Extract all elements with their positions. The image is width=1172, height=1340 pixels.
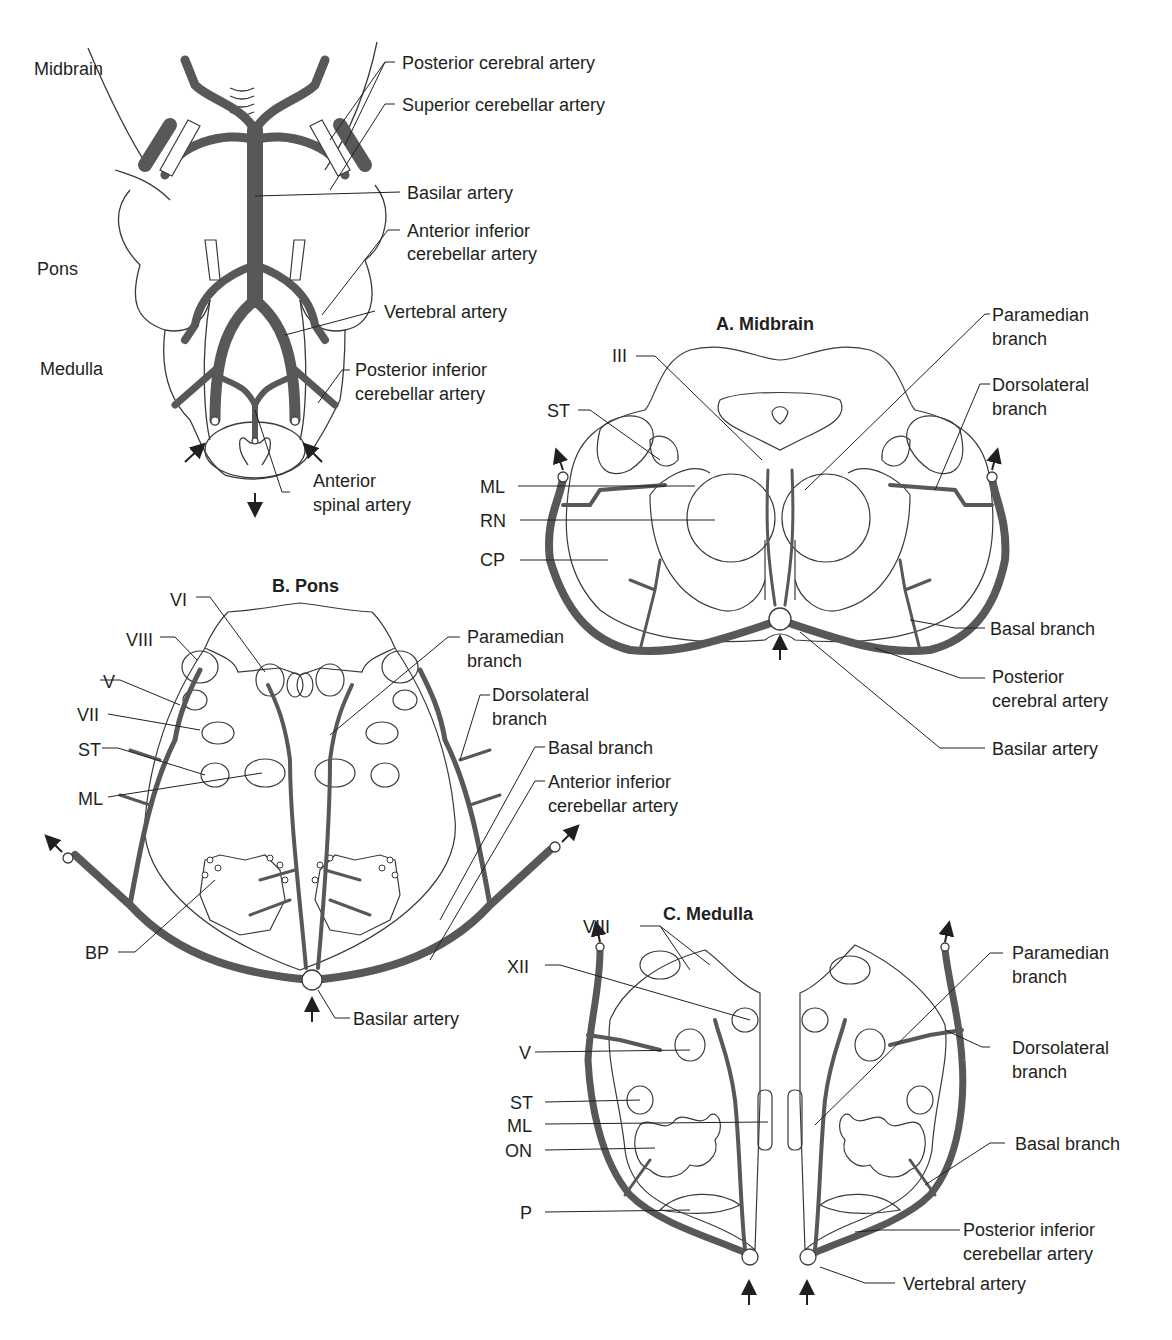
midbrain-section xyxy=(566,347,993,641)
medulla-label-ST: ST xyxy=(510,1092,533,1114)
region-label-medulla: Medulla xyxy=(40,358,103,380)
medulla-arteries xyxy=(588,950,963,1255)
midbrain-leader-lines xyxy=(518,314,990,748)
midbrain-label-basal-branch: Basal branch xyxy=(990,618,1095,640)
pons-label-BP: BP xyxy=(85,942,109,964)
label-pica-line1: Posterior inferior xyxy=(355,359,487,381)
medulla-label-V: V xyxy=(519,1042,531,1064)
label-pica-line2: cerebellar artery xyxy=(355,383,485,405)
midbrain-label-pca-2: cerebral artery xyxy=(992,690,1108,712)
medulla-label-P: P xyxy=(520,1202,532,1224)
midbrain-section-title: A. Midbrain xyxy=(716,314,814,335)
label-anterior-spinal-line1: Anterior xyxy=(313,470,376,492)
pons-label-ML: ML xyxy=(78,788,103,810)
pons-label-VII: VII xyxy=(77,704,99,726)
pons-label-basal-branch: Basal branch xyxy=(548,737,653,759)
label-anterior-spinal-line2: spinal artery xyxy=(313,494,411,516)
medulla-label-pica-1: Posterior inferior xyxy=(963,1219,1095,1241)
medulla-section xyxy=(609,945,946,1250)
midbrain-label-CP: CP xyxy=(480,549,505,571)
pons-arrows xyxy=(50,830,574,1022)
pons-label-VIII: VIII xyxy=(126,629,153,651)
label-basilar-artery: Basilar artery xyxy=(407,182,513,204)
pons-section-title: B. Pons xyxy=(272,576,339,597)
midbrain-label-paramedian-1: Paramedian xyxy=(992,304,1089,326)
medulla-label-basal-branch: Basal branch xyxy=(1015,1133,1120,1155)
midbrain-label-ST: ST xyxy=(547,400,570,422)
medulla-section-title: C. Medulla xyxy=(663,904,753,925)
pons-label-ST: ST xyxy=(78,739,101,761)
region-label-midbrain: Midbrain xyxy=(34,58,103,80)
medulla-label-ON: ON xyxy=(505,1140,532,1162)
pons-label-dorsolateral-2: branch xyxy=(492,708,547,730)
midbrain-label-paramedian-2: branch xyxy=(992,328,1047,350)
midbrain-label-basilar-artery: Basilar artery xyxy=(992,738,1098,760)
label-aica-line2: cerebellar artery xyxy=(407,243,537,265)
pons-label-paramedian-2: branch xyxy=(467,650,522,672)
pons-label-basilar-artery: Basilar artery xyxy=(353,1008,459,1030)
midbrain-label-pca-1: Posterior xyxy=(992,666,1064,688)
midbrain-label-III: III xyxy=(612,345,627,367)
pons-label-aica-1: Anterior inferior xyxy=(548,771,671,793)
label-aica-line1: Anterior inferior xyxy=(407,220,530,242)
medulla-label-XII: XII xyxy=(507,956,529,978)
label-superior-cerebellar-artery: Superior cerebellar artery xyxy=(402,94,605,116)
pons-label-dorsolateral-1: Dorsolateral xyxy=(492,684,589,706)
label-vertebral-artery: Vertebral artery xyxy=(384,301,507,323)
midbrain-label-dorsolateral-1: Dorsolateral xyxy=(992,374,1089,396)
pons-label-VI: VI xyxy=(170,589,187,611)
pons-label-aica-2: cerebellar artery xyxy=(548,795,678,817)
medulla-label-dorsolateral-1: Dorsolateral xyxy=(1012,1037,1109,1059)
pons-label-V: V xyxy=(103,671,115,693)
medulla-label-paramedian-2: branch xyxy=(1012,966,1067,988)
midbrain-label-ML: ML xyxy=(480,476,505,498)
medulla-label-VIII: VIII xyxy=(583,916,610,938)
medulla-label-dorsolateral-2: branch xyxy=(1012,1061,1067,1083)
midbrain-label-RN: RN xyxy=(480,510,506,532)
medulla-label-paramedian-1: Paramedian xyxy=(1012,942,1109,964)
label-posterior-cerebral-artery: Posterior cerebral artery xyxy=(402,52,595,74)
medulla-label-pica-2: cerebellar artery xyxy=(963,1243,1093,1265)
medulla-leader-lines xyxy=(535,926,1005,1283)
pons-arteries xyxy=(75,670,550,980)
midbrain-cut-vessels xyxy=(558,472,997,630)
region-label-pons: Pons xyxy=(37,258,78,280)
midbrain-label-dorsolateral-2: branch xyxy=(992,398,1047,420)
medulla-label-vertebral-artery: Vertebral artery xyxy=(903,1273,1026,1295)
pons-label-paramedian-1: Paramedian xyxy=(467,626,564,648)
medulla-label-ML: ML xyxy=(507,1115,532,1137)
